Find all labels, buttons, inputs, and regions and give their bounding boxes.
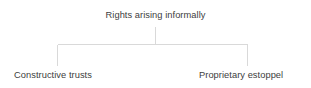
child-node-label-constructive-trusts: Constructive trusts (14, 69, 92, 81)
tree-diagram: Rights arising informally Constructive t… (0, 0, 311, 88)
root-node-label: Rights arising informally (0, 9, 311, 21)
child-node-label-proprietary-estoppel: Proprietary estoppel (199, 69, 283, 81)
